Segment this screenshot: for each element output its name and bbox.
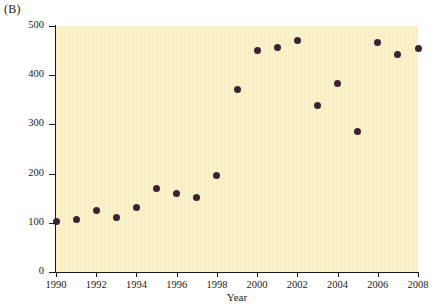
x-axis-tick-label: 2000 [237,279,277,290]
data-point [274,44,281,51]
x-axis-line [55,272,419,273]
x-axis-tick-label: 1998 [197,279,237,290]
x-axis-tick-label: 2004 [318,279,358,290]
plot-area [56,26,418,272]
figure-panel-b: (B) 0100200300400500 1990199219941996199… [0,0,439,305]
y-axis-tick-label: 300 [0,117,44,128]
data-point [415,45,422,52]
x-axis-tick [418,272,419,277]
data-point [234,86,241,93]
x-axis-tick [96,272,97,277]
plot-paper-texture [56,26,418,272]
x-axis-tick-label: 2008 [398,279,438,290]
data-point [133,204,140,211]
x-axis-tick [297,272,298,277]
data-point [113,214,120,221]
y-axis-tick-label: 400 [0,68,44,79]
data-point [334,80,341,87]
data-point [254,47,261,54]
x-axis-title: Year [56,291,418,303]
data-point [173,190,180,197]
x-axis-tick [217,272,218,277]
y-axis-tick-label: 100 [0,216,44,227]
x-axis-tick-label: 2002 [277,279,317,290]
y-axis-tick-label: 200 [0,167,44,178]
y-axis-tick [49,124,55,125]
x-axis-tick-label: 1990 [36,279,76,290]
panel-label: (B) [4,2,21,17]
data-point [354,128,361,135]
data-point [153,185,160,192]
x-axis-tick-label: 2006 [358,279,398,290]
data-point [294,37,301,44]
data-point [213,172,220,179]
data-point [374,39,381,46]
x-axis-tick [257,272,258,277]
x-axis-tick [338,272,339,277]
y-axis-tick [49,223,55,224]
x-axis-tick [177,272,178,277]
x-axis-tick-label: 1992 [76,279,116,290]
x-axis-tick-label: 1996 [157,279,197,290]
data-point [193,194,200,201]
y-axis-tick-label: 0 [0,265,44,276]
data-point [73,216,80,223]
y-axis-tick [49,174,55,175]
y-axis-tick [49,75,55,76]
y-axis-tick [49,272,55,273]
y-axis-tick [49,26,55,27]
data-point [394,51,401,58]
x-axis-tick [136,272,137,277]
y-axis-tick-label: 500 [0,19,44,30]
data-point [93,207,100,214]
x-axis-tick [378,272,379,277]
data-point [314,102,321,109]
x-axis-tick [56,272,57,277]
x-axis-tick-label: 1994 [116,279,156,290]
